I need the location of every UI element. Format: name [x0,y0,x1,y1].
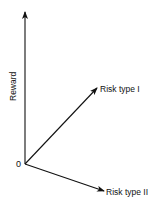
risk-type-1-axis-arrow [25,88,97,164]
risk-type-2-axis-arrow [25,164,104,191]
origin-label: 0 [16,159,21,169]
risk-type-1-label: Risk type I [100,84,140,94]
reward-axis-label: Reward [8,71,18,101]
reward-risk-diagram: 0 Reward Risk type I Risk type II [0,0,156,204]
risk-type-2-label: Risk type II [106,187,148,197]
